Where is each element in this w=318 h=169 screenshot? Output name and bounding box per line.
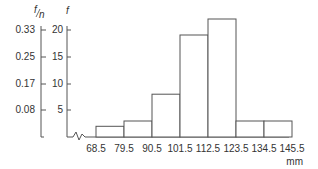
histogram-chart: 0.33 0.25 0.17 0.08 f n 20 15 10 5 f <box>0 0 318 169</box>
x-tick-labels: 68.5 79.5 90.5 101.5 112.5 123.5 134.5 1… <box>86 143 305 167</box>
svg-text:134.5: 134.5 <box>251 143 276 154</box>
rel-tick-0.25: 0.25 <box>16 51 36 62</box>
svg-text:n: n <box>39 9 45 20</box>
svg-text:79.5: 79.5 <box>114 143 134 154</box>
svg-text:90.5: 90.5 <box>142 143 162 154</box>
svg-text:112.5: 112.5 <box>196 143 221 154</box>
bar-5 <box>208 19 236 137</box>
bar-6 <box>236 121 264 137</box>
rel-tick-0.08: 0.08 <box>16 104 36 115</box>
rel-tick-0.33: 0.33 <box>16 24 36 35</box>
svg-text:101.5: 101.5 <box>167 143 192 154</box>
rel-tick-0.17: 0.17 <box>16 78 36 89</box>
bar-1 <box>96 126 124 137</box>
tick-15: 15 <box>52 51 64 62</box>
frequency-axis: 20 15 10 5 f <box>52 5 71 137</box>
bars <box>96 19 292 137</box>
relative-frequency-axis: 0.33 0.25 0.17 0.08 f n <box>16 4 46 137</box>
tick-5: 5 <box>57 104 63 115</box>
bar-3 <box>152 94 180 137</box>
svg-text:f: f <box>34 4 38 15</box>
unit-label: mm <box>286 156 303 167</box>
fn-axis-title: f n <box>34 4 45 20</box>
bar-4 <box>180 35 208 137</box>
svg-text:145.5: 145.5 <box>279 143 304 154</box>
tick-10: 10 <box>52 78 64 89</box>
svg-text:68.5: 68.5 <box>86 143 106 154</box>
svg-text:123.5: 123.5 <box>223 143 248 154</box>
bar-2 <box>124 121 152 137</box>
tick-20: 20 <box>52 24 64 35</box>
f-axis-title: f <box>66 5 70 16</box>
bar-7 <box>264 121 292 137</box>
